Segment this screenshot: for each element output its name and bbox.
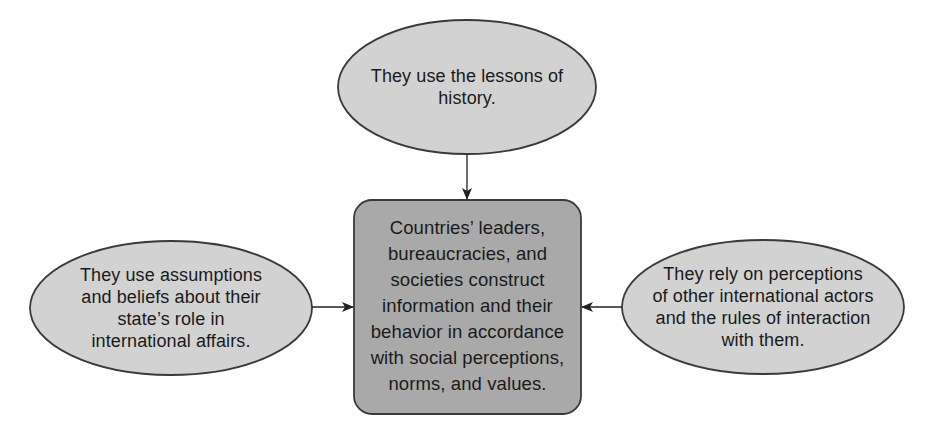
center-node-line: behavior in accordance bbox=[371, 319, 565, 345]
top-node-line: They use the lessons of bbox=[371, 65, 563, 87]
top-node-label: They use the lessons of history. bbox=[345, 54, 589, 120]
left-node-line: They use assumptions bbox=[80, 264, 262, 286]
right-node-line: of other international actors bbox=[652, 285, 873, 307]
left-node-line: and beliefs about their bbox=[80, 286, 262, 308]
center-node-line: information and their bbox=[371, 293, 565, 319]
right-node-line: and the rules of interaction bbox=[652, 307, 873, 329]
center-node-line: bureaucracies, and bbox=[371, 241, 565, 267]
left-node-line: international affairs. bbox=[80, 330, 262, 352]
center-node-line: Countries’ leaders, bbox=[371, 215, 565, 241]
center-node-line: norms, and values. bbox=[371, 371, 565, 397]
right-node-line: They rely on perceptions bbox=[652, 263, 873, 285]
right-node-line: with them. bbox=[652, 329, 873, 351]
left-node-line: state’s role in bbox=[80, 308, 262, 330]
center-node-label: Countries’ leaders, bureaucracies, and s… bbox=[356, 208, 579, 404]
left-node-label: They use assumptions and beliefs about t… bbox=[45, 262, 297, 354]
center-node-line: with social perceptions, bbox=[371, 345, 565, 371]
right-node-label: They rely on perceptions of other intern… bbox=[632, 261, 894, 353]
top-node-line: history. bbox=[371, 87, 563, 109]
center-node-line: societies construct bbox=[371, 267, 565, 293]
